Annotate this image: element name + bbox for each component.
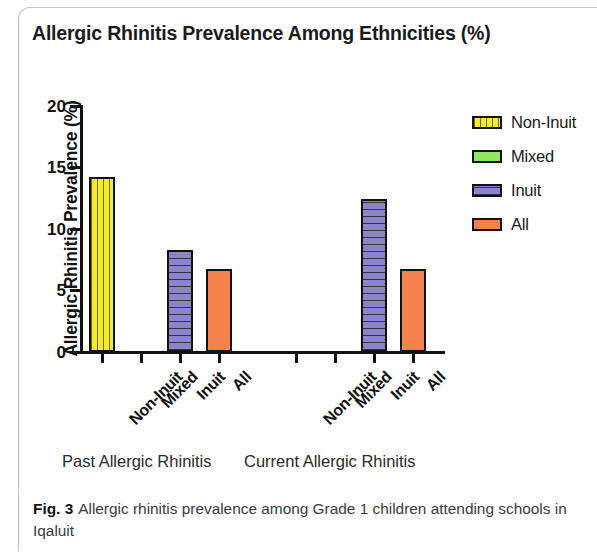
legend-item-mixed: Mixed — [472, 141, 597, 171]
bar-current-all — [400, 269, 426, 352]
x-label-current-all: All — [423, 368, 450, 395]
y-tick-10 — [70, 228, 80, 231]
y-tick-label-10: 10 — [26, 221, 66, 238]
x-label-past-inuit: Inuit — [193, 368, 229, 404]
x-tick-1 — [101, 354, 104, 363]
legend-swatch-mixed-icon — [472, 150, 502, 163]
bar-past-non-inuit — [89, 177, 115, 352]
group-label-past: Past Allergic Rhinitis — [62, 452, 211, 471]
legend-item-inuit: Inuit — [472, 175, 597, 205]
y-tick-label-20: 20 — [26, 98, 66, 115]
x-tick-7 — [373, 354, 376, 363]
x-axis-line — [80, 351, 445, 354]
bar-past-all — [206, 269, 232, 352]
figure-caption: Fig. 3Allergic rhinitis prevalence among… — [33, 498, 585, 542]
legend-item-all: All — [472, 209, 597, 239]
plot-area: Allergic Rhinitis Prevalence (%) 20 15 1… — [0, 0, 597, 500]
x-tick-4 — [218, 354, 221, 363]
legend-label-all: All — [511, 215, 529, 234]
y-tick-5 — [70, 289, 80, 292]
legend-item-non-inuit: Non-Inuit — [472, 107, 597, 137]
y-tick-15 — [70, 166, 80, 169]
y-tick-0 — [70, 351, 80, 354]
y-tick-label-0: 0 — [26, 344, 66, 361]
bar-current-inuit — [361, 199, 387, 352]
bar-past-inuit — [167, 250, 193, 352]
chart-legend: Non-Inuit Mixed Inuit All — [472, 107, 597, 243]
legend-label-mixed: Mixed — [511, 147, 554, 166]
x-tick-3 — [179, 354, 182, 363]
x-label-past-all: All — [229, 368, 256, 395]
legend-label-non-inuit: Non-Inuit — [511, 113, 576, 132]
x-label-current-inuit: Inuit — [387, 368, 423, 404]
x-tick-6 — [334, 354, 337, 363]
group-label-current: Current Allergic Rhinitis — [244, 452, 415, 471]
legend-swatch-non-inuit-icon — [472, 116, 502, 129]
legend-swatch-inuit-icon — [472, 184, 502, 197]
figure-number: Fig. 3 — [33, 500, 73, 517]
x-tick-5 — [295, 354, 298, 363]
legend-label-inuit: Inuit — [511, 181, 541, 200]
x-tick-2 — [140, 354, 143, 363]
x-tick-8 — [412, 354, 415, 363]
figure-caption-text: Allergic rhinitis prevalence among Grade… — [33, 500, 567, 539]
figure-panel: Allergic Rhinitis Prevalence Among Ethni… — [0, 0, 597, 554]
y-tick-label-5: 5 — [26, 282, 66, 299]
legend-swatch-all-icon — [472, 218, 502, 231]
y-tick-label-15: 15 — [26, 159, 66, 176]
y-tick-20 — [70, 105, 80, 108]
caption-divider — [18, 489, 597, 490]
